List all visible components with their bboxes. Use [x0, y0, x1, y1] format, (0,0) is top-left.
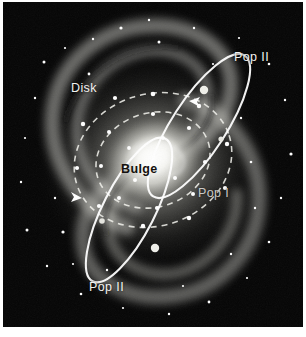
galaxy-illustration [3, 2, 303, 327]
galaxy-photographic-plate: Pop II Disk Bulge Pop I Pop II [3, 2, 303, 327]
film-grain [3, 2, 303, 327]
galaxy-diagram-figure: Pop II Disk Bulge Pop I Pop II [0, 0, 306, 337]
